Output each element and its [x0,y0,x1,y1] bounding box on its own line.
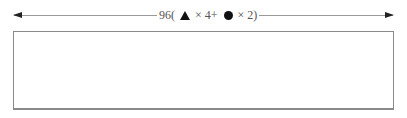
triangle-icon [180,11,190,20]
circle-multiplier: × 2) [238,7,258,23]
arrow-left-icon [13,12,22,18]
circle-icon [224,11,233,20]
empty-box [13,31,394,110]
dimension-total: 96( [159,7,175,23]
arrow-right-icon [385,12,394,18]
triangle-multiplier: × 4+ [195,7,218,23]
dimension-label: 96( × 4+ × 2) [157,7,259,23]
